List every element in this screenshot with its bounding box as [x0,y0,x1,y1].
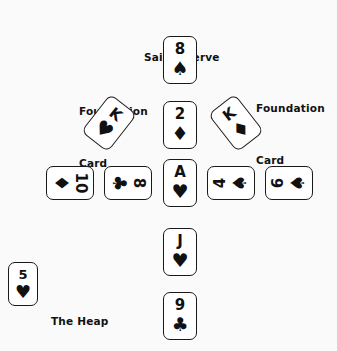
card-rank: 4 [213,178,228,188]
spade-icon: ♠ [230,174,249,191]
diamond-icon: ♦ [171,124,188,143]
spade-icon: ♠ [288,174,307,191]
card-rank: 8 [175,42,185,57]
card-center-second[interactable]: 2 ♦ [163,101,197,149]
card-rank: 10 [73,173,88,194]
spade-icon: ♠ [171,59,188,78]
card-row-six[interactable]: 6 ♠ [265,166,313,200]
heart-icon: ♥ [171,251,188,270]
card-row-ten[interactable]: 10 ♦ [46,166,94,200]
card-rank: 5 [18,268,27,281]
card-center-jack[interactable]: J ♥ [163,228,197,276]
card-rank: A [174,165,186,180]
heart-icon: ♥ [15,283,31,301]
diamond-icon: ♦ [228,116,254,143]
card-center-ace[interactable]: A ♥ [163,159,197,207]
card-rank: 9 [175,298,185,313]
card-the-heap[interactable]: 5 ♥ [8,262,38,306]
the-heap-text: The Heap [51,314,109,329]
foundation-right-line1: Foundation [256,101,325,116]
club-icon: ♣ [171,315,188,334]
card-sail-reserve[interactable]: 8 ♠ [163,36,197,84]
card-rank: J [177,234,183,249]
label-the-heap: The Heap [51,284,109,351]
card-rank: 8 [131,178,146,188]
card-row-four[interactable]: 4 ♠ [207,166,255,200]
card-rank: 2 [175,107,185,122]
diamond-icon: ♦ [52,174,71,191]
card-row-eight[interactable]: 8 ♣ [104,166,152,200]
card-rank: 6 [271,178,286,188]
card-center-nine[interactable]: 9 ♣ [163,292,197,340]
club-icon: ♣ [110,174,129,191]
card-layout-diagram: Sail Reserve Foundation Card Foundation … [0,0,337,351]
heart-icon: ♥ [171,182,188,201]
